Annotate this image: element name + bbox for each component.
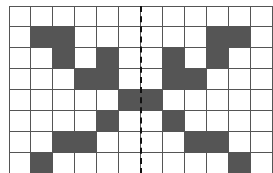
- grid-cell-empty: [141, 27, 163, 48]
- grid-cell-empty: [119, 153, 141, 173]
- grid-cell-filled: [31, 153, 53, 173]
- grid-cell-empty: [9, 48, 31, 69]
- grid-cell-empty: [141, 69, 163, 90]
- grid-cell-empty: [251, 48, 273, 69]
- grid-cell-empty: [251, 153, 273, 173]
- grid-cell-filled: [163, 48, 185, 69]
- grid-cell-filled: [53, 48, 75, 69]
- grid-cell-empty: [119, 27, 141, 48]
- grid-cell-empty: [229, 6, 251, 27]
- grid-cell-empty: [229, 48, 251, 69]
- grid-cell-empty: [75, 111, 97, 132]
- grid-cell-empty: [251, 111, 273, 132]
- grid-cell-empty: [141, 111, 163, 132]
- grid-cell-empty: [141, 48, 163, 69]
- grid-cell-empty: [9, 69, 31, 90]
- grid-cell-empty: [207, 153, 229, 173]
- grid-cell-empty: [119, 6, 141, 27]
- grid-cell-filled: [185, 132, 207, 153]
- grid-cell-empty: [185, 111, 207, 132]
- grid-cell-empty: [31, 48, 53, 69]
- grid-cell-empty: [119, 48, 141, 69]
- grid-cell-empty: [75, 90, 97, 111]
- grid-cell-filled: [119, 90, 141, 111]
- grid-cell-filled: [163, 69, 185, 90]
- grid-cell-empty: [75, 153, 97, 173]
- grid-cell-empty: [163, 132, 185, 153]
- grid-cell-empty: [31, 69, 53, 90]
- grid-cell-empty: [97, 6, 119, 27]
- grid-cell-empty: [119, 111, 141, 132]
- grid-cell-empty: [31, 90, 53, 111]
- grid-cell-filled: [207, 27, 229, 48]
- grid-cell-filled: [97, 48, 119, 69]
- grid-cell-filled: [141, 90, 163, 111]
- grid-cell-empty: [97, 153, 119, 173]
- grid-cell-empty: [229, 132, 251, 153]
- grid-cell-empty: [53, 90, 75, 111]
- grid-cell-empty: [185, 90, 207, 111]
- grid-cell-empty: [53, 111, 75, 132]
- grid-cell-empty: [119, 132, 141, 153]
- grid-cell-empty: [97, 27, 119, 48]
- grid-cell-empty: [9, 27, 31, 48]
- grid-cell-filled: [229, 27, 251, 48]
- grid-cell-empty: [185, 6, 207, 27]
- grid-cell-empty: [9, 132, 31, 153]
- grid-cell-empty: [251, 69, 273, 90]
- grid-cell-empty: [207, 111, 229, 132]
- grid-cell-empty: [163, 153, 185, 173]
- grid-cell-empty: [141, 132, 163, 153]
- grid-cell-empty: [251, 90, 273, 111]
- grid-cell-filled: [207, 132, 229, 153]
- grid-cell-empty: [229, 111, 251, 132]
- grid-cell-empty: [207, 90, 229, 111]
- grid-cell-empty: [53, 69, 75, 90]
- grid-cell-empty: [141, 153, 163, 173]
- grid-cell-empty: [119, 69, 141, 90]
- grid-cell-empty: [9, 153, 31, 173]
- grid-cell-empty: [75, 27, 97, 48]
- grid-cell-empty: [251, 6, 273, 27]
- grid-cell-empty: [53, 6, 75, 27]
- grid-cell-filled: [97, 111, 119, 132]
- grid-cell-empty: [9, 6, 31, 27]
- grid-cell-filled: [75, 69, 97, 90]
- grid-cell-empty: [141, 6, 163, 27]
- grid-cell-empty: [31, 132, 53, 153]
- grid-cell-empty: [53, 153, 75, 173]
- symmetry-axis-dashed-line: [140, 6, 142, 173]
- grid-cell-empty: [251, 27, 273, 48]
- grid-cell-empty: [251, 132, 273, 153]
- grid-cell-empty: [207, 69, 229, 90]
- grid-cell-empty: [31, 111, 53, 132]
- grid-cell-empty: [207, 6, 229, 27]
- grid-cell-empty: [163, 27, 185, 48]
- grid-cell-empty: [9, 111, 31, 132]
- grid-cell-empty: [31, 6, 53, 27]
- grid-cell-empty: [185, 48, 207, 69]
- grid-cell-empty: [163, 6, 185, 27]
- grid-cell-filled: [229, 153, 251, 173]
- grid-cell-empty: [9, 90, 31, 111]
- grid-cell-empty: [97, 90, 119, 111]
- grid-cell-empty: [75, 48, 97, 69]
- grid-cell-empty: [185, 153, 207, 173]
- grid-cell-empty: [229, 69, 251, 90]
- grid-cell-empty: [229, 90, 251, 111]
- grid-cell-empty: [97, 132, 119, 153]
- grid-cell-filled: [53, 27, 75, 48]
- grid-cell-empty: [185, 27, 207, 48]
- grid-cell-filled: [75, 132, 97, 153]
- grid-cell-filled: [53, 132, 75, 153]
- grid-cell-empty: [75, 6, 97, 27]
- grid-cell-empty: [163, 90, 185, 111]
- grid-cell-filled: [163, 111, 185, 132]
- grid-cell-filled: [207, 48, 229, 69]
- grid-cell-filled: [31, 27, 53, 48]
- grid-cell-filled: [97, 69, 119, 90]
- grid-cell-filled: [185, 69, 207, 90]
